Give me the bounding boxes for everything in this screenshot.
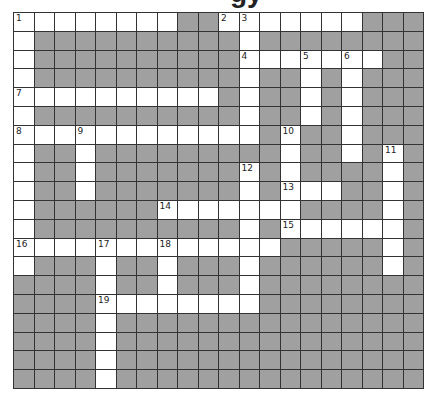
crossword-cell[interactable] [342, 69, 362, 87]
crossword-cell[interactable] [240, 69, 260, 87]
crossword-cell[interactable] [301, 88, 321, 106]
crossword-cell[interactable] [281, 51, 301, 69]
crossword-cell[interactable] [96, 257, 116, 275]
crossword-cell[interactable]: 18 [158, 239, 178, 257]
crossword-cell[interactable] [301, 107, 321, 125]
crossword-cell[interactable] [383, 182, 403, 200]
crossword-cell[interactable] [322, 51, 342, 69]
crossword-cell[interactable] [199, 239, 219, 257]
crossword-cell[interactable] [342, 220, 362, 238]
crossword-cell[interactable] [260, 13, 280, 31]
crossword-cell[interactable]: 4 [240, 51, 260, 69]
crossword-cell[interactable] [342, 107, 362, 125]
crossword-cell[interactable] [117, 126, 137, 144]
crossword-cell[interactable]: 13 [281, 182, 301, 200]
crossword-cell[interactable] [96, 88, 116, 106]
crossword-cell[interactable] [260, 51, 280, 69]
crossword-cell[interactable]: 5 [301, 51, 321, 69]
crossword-cell[interactable] [219, 295, 239, 313]
crossword-cell[interactable] [281, 201, 301, 219]
crossword-cell[interactable] [14, 107, 34, 125]
crossword-cell[interactable] [240, 107, 260, 125]
crossword-cell[interactable] [178, 201, 198, 219]
crossword-cell[interactable] [342, 13, 362, 31]
crossword-cell[interactable]: 12 [240, 163, 260, 181]
crossword-cell[interactable] [158, 126, 178, 144]
crossword-cell[interactable]: 10 [281, 126, 301, 144]
crossword-cell[interactable] [383, 163, 403, 181]
crossword-cell[interactable] [281, 163, 301, 181]
crossword-cell[interactable] [76, 13, 96, 31]
crossword-cell[interactable] [240, 257, 260, 275]
crossword-cell[interactable] [117, 295, 137, 313]
crossword-cell[interactable] [14, 51, 34, 69]
crossword-cell[interactable] [199, 88, 219, 106]
crossword-cell[interactable] [158, 257, 178, 275]
crossword-cell[interactable] [301, 69, 321, 87]
crossword-cell[interactable] [383, 239, 403, 257]
crossword-cell[interactable] [96, 13, 116, 31]
crossword-cell[interactable] [383, 201, 403, 219]
crossword-cell[interactable] [178, 88, 198, 106]
crossword-cell[interactable] [301, 13, 321, 31]
crossword-cell[interactable] [301, 182, 321, 200]
crossword-cell[interactable] [14, 182, 34, 200]
crossword-cell[interactable] [219, 201, 239, 219]
crossword-cell[interactable] [158, 13, 178, 31]
crossword-cell[interactable]: 1 [14, 13, 34, 31]
crossword-cell[interactable] [14, 163, 34, 181]
crossword-cell[interactable] [199, 295, 219, 313]
crossword-cell[interactable] [301, 220, 321, 238]
crossword-cell[interactable] [14, 257, 34, 275]
crossword-cell[interactable] [240, 201, 260, 219]
crossword-cell[interactable] [240, 126, 260, 144]
crossword-cell[interactable] [240, 88, 260, 106]
crossword-cell[interactable] [178, 126, 198, 144]
crossword-cell[interactable] [158, 295, 178, 313]
crossword-cell[interactable] [96, 370, 116, 388]
crossword-cell[interactable] [14, 32, 34, 50]
crossword-cell[interactable]: 14 [158, 201, 178, 219]
crossword-cell[interactable] [14, 220, 34, 238]
crossword-cell[interactable] [76, 88, 96, 106]
crossword-cell[interactable] [96, 276, 116, 294]
crossword-cell[interactable] [96, 351, 116, 369]
crossword-cell[interactable] [14, 145, 34, 163]
crossword-cell[interactable] [322, 13, 342, 31]
crossword-cell[interactable]: 8 [14, 126, 34, 144]
crossword-cell[interactable]: 3 [240, 13, 260, 31]
crossword-cell[interactable] [322, 182, 342, 200]
crossword-cell[interactable] [363, 220, 383, 238]
crossword-cell[interactable]: 15 [281, 220, 301, 238]
crossword-cell[interactable] [322, 220, 342, 238]
crossword-cell[interactable] [199, 201, 219, 219]
crossword-cell[interactable]: 19 [96, 295, 116, 313]
crossword-cell[interactable]: 17 [96, 239, 116, 257]
crossword-cell[interactable] [240, 220, 260, 238]
crossword-cell[interactable] [219, 239, 239, 257]
crossword-cell[interactable] [14, 201, 34, 219]
crossword-cell[interactable]: 7 [14, 88, 34, 106]
crossword-cell[interactable] [199, 126, 219, 144]
crossword-cell[interactable] [35, 13, 55, 31]
crossword-cell[interactable] [260, 201, 280, 219]
crossword-cell[interactable] [137, 239, 157, 257]
crossword-cell[interactable] [137, 126, 157, 144]
crossword-cell[interactable] [55, 126, 75, 144]
crossword-cell[interactable] [383, 220, 403, 238]
crossword-cell[interactable]: 2 [219, 13, 239, 31]
crossword-cell[interactable] [260, 239, 280, 257]
crossword-cell[interactable] [178, 295, 198, 313]
crossword-cell[interactable] [158, 276, 178, 294]
crossword-cell[interactable] [96, 126, 116, 144]
crossword-cell[interactable] [178, 239, 198, 257]
crossword-cell[interactable] [137, 13, 157, 31]
crossword-cell[interactable]: 6 [342, 51, 362, 69]
crossword-cell[interactable] [117, 239, 137, 257]
crossword-cell[interactable] [281, 145, 301, 163]
crossword-cell[interactable] [76, 145, 96, 163]
crossword-cell[interactable] [55, 239, 75, 257]
crossword-cell[interactable] [76, 182, 96, 200]
crossword-cell[interactable] [76, 239, 96, 257]
crossword-cell[interactable] [35, 88, 55, 106]
